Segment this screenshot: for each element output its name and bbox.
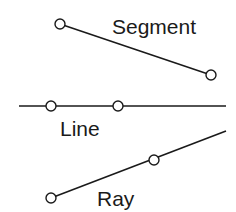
ray-figure: Ray — [46, 131, 226, 210]
line-figure: Line — [19, 101, 226, 140]
ray-label: Ray — [97, 187, 135, 210]
line-point-a — [46, 101, 56, 111]
ray-origin-point — [46, 193, 56, 203]
segment-endpoint-b — [206, 70, 216, 80]
line-label: Line — [60, 117, 100, 140]
segment-endpoint-a — [55, 19, 65, 29]
ray-through-point — [149, 155, 159, 165]
line-point-b — [113, 101, 123, 111]
segment-figure: Segment — [55, 15, 216, 80]
geometry-diagram: Segment Line Ray — [0, 0, 236, 212]
segment-label: Segment — [112, 15, 196, 38]
ray-path — [51, 131, 226, 198]
